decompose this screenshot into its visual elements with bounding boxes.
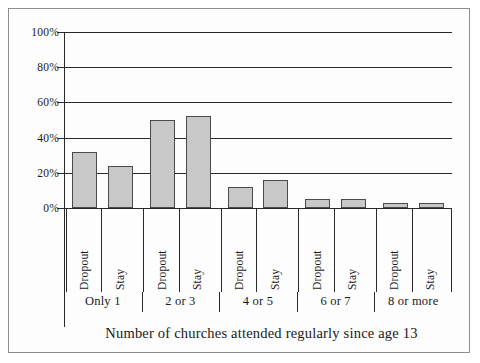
group-label: 6 or 7: [320, 294, 350, 309]
axis-separator: [334, 208, 335, 292]
axis-separator: [101, 208, 102, 292]
axis-separator: [298, 208, 299, 292]
bar-axis-label: Dropout: [388, 250, 400, 290]
axis-separator: [66, 208, 67, 292]
group-separator: [297, 292, 298, 312]
y-axis-tick-mark: [57, 102, 64, 103]
group-separator: [374, 292, 375, 312]
axis-separator: [376, 208, 377, 292]
y-axis-tick-mark: [57, 173, 64, 174]
axis-separator: [221, 208, 222, 292]
axis-separator: [256, 208, 257, 292]
group-label-band: Only 12 or 34 or 56 or 78 or more: [64, 292, 452, 320]
axis-separator: [143, 208, 144, 292]
chart-figure: 0%20%40%60%80%100% DropoutStayDropoutSta…: [8, 8, 470, 353]
y-axis-tick-mark: [57, 138, 64, 139]
bar-axis-label: Dropout: [311, 250, 323, 290]
y-axis-tick-label: 20%: [37, 167, 59, 179]
bar-axis-label: Dropout: [78, 250, 90, 290]
bar-axis-label: Stay: [269, 269, 281, 290]
group-label: Only 1: [85, 294, 121, 309]
bar-axis-label: Stay: [346, 269, 358, 290]
axis-separator: [179, 208, 180, 292]
group-label: 2 or 3: [165, 294, 195, 309]
x-axis-title: Number of churches attended regularly si…: [69, 325, 454, 342]
axis-separator: [451, 208, 452, 292]
y-axis-tick-label: 80%: [37, 61, 59, 73]
y-axis-tick-label: 40%: [37, 132, 59, 144]
bar-axis-label: Dropout: [156, 250, 168, 290]
bar: [150, 120, 175, 208]
plot-area: [64, 24, 452, 208]
y-axis-tick-labels: 0%20%40%60%80%100%: [9, 9, 63, 354]
y-axis-tick-mark: [57, 32, 64, 33]
y-axis-tick-label: 100%: [31, 26, 59, 38]
bar: [341, 199, 366, 208]
bar: [108, 166, 133, 208]
y-axis-tick-mark: [57, 67, 64, 68]
group-separator: [219, 292, 220, 312]
bar-axis-label: Stay: [191, 269, 203, 290]
group-label: 4 or 5: [243, 294, 273, 309]
y-axis-tick-mark: [57, 208, 64, 209]
group-separator: [142, 292, 143, 312]
bar-series: [64, 24, 452, 208]
bar-axis-label: Stay: [424, 269, 436, 290]
bar: [228, 187, 253, 208]
bar: [186, 116, 211, 208]
bar-axis-label: Stay: [114, 269, 126, 290]
bar: [263, 180, 288, 208]
axis-separator: [412, 208, 413, 292]
bar-axis-label: Dropout: [233, 250, 245, 290]
bar: [72, 152, 97, 208]
bar: [305, 199, 330, 208]
bar-label-band: DropoutStayDropoutStayDropoutStayDropout…: [64, 208, 452, 292]
y-axis-tick-label: 60%: [37, 96, 59, 108]
group-label: 8 or more: [388, 294, 438, 309]
